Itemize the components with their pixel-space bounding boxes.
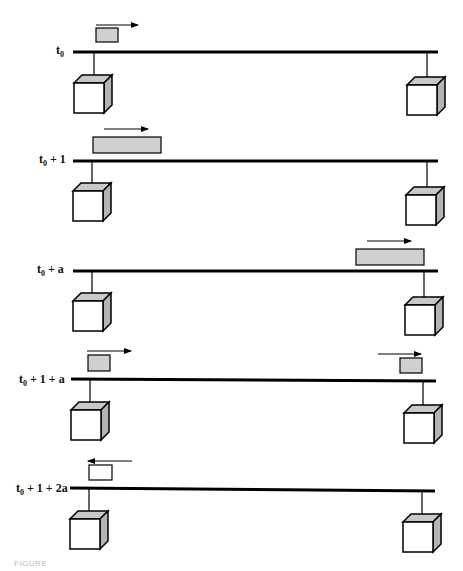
- row-t0-plus-a: [73, 241, 443, 335]
- row-label-t0: t0: [56, 43, 64, 59]
- row-t0-plus-1-plus-2a: [70, 461, 441, 552]
- diagram-canvas: [0, 0, 463, 571]
- figure: t0 t0 + 1 t0 + a t0 + 1 + a t0 + 1 + 2a …: [0, 0, 463, 571]
- row-t0-plus-1: [73, 129, 444, 225]
- row-t0-plus-1-plus-a: [71, 351, 442, 443]
- row-t0: [73, 25, 445, 115]
- row-label-t0-plus-1-plus-a: t0 + 1 + a: [19, 372, 65, 388]
- figure-caption: FIGURE: [14, 559, 47, 568]
- row-label-t0-plus-a: t0 + a: [37, 262, 64, 278]
- row-label-t0-plus-1-plus-2a: t0 + 1 + 2a: [16, 481, 68, 497]
- row-label-t0-plus-1: t0 + 1: [39, 152, 66, 168]
